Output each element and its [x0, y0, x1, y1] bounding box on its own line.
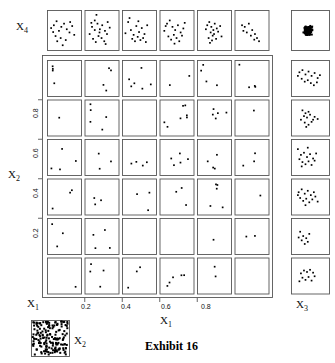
- grid-panel-frame-r2c1: [85, 140, 119, 176]
- y-tick-label-1: 0.6: [32, 148, 39, 158]
- grid-panel-frame-r2c4: [198, 140, 232, 176]
- grid-panel-frame-r1c1: [85, 100, 119, 136]
- grid-panel-points-r4c4: [213, 239, 215, 241]
- x-tick-label-1: 0.4: [121, 303, 131, 310]
- grid-panel-frame-r1c0: [48, 100, 82, 136]
- grid-panel-frame-r3c2: [123, 179, 157, 215]
- top-panel-frame-0: [48, 11, 82, 51]
- grid-panel-frame-r5c1: [85, 258, 119, 294]
- axis-label-x3: X3: [296, 298, 308, 313]
- right-panel-frame-4: [292, 219, 330, 255]
- top-panel-frame-2: [123, 11, 157, 51]
- grid-panel-frame-r3c4: [198, 179, 232, 215]
- grid-panel-points-r1c0: [58, 117, 60, 119]
- grid-panel-frame-r3c0: [48, 179, 82, 215]
- x-tick-label-2: 0.6: [161, 303, 171, 310]
- grid-panel-frame-r0c1: [85, 61, 119, 97]
- axis-label-x4: X4: [16, 20, 28, 35]
- right-panel-frame-0: [292, 61, 330, 97]
- grid-panel-frame-r2c2: [123, 140, 157, 176]
- grid-panel-frame-r4c2: [123, 219, 157, 255]
- axis-label-x2: X2: [8, 168, 20, 183]
- grid-panel-frame-r2c3: [160, 140, 194, 176]
- grid-panel-frame-r5c5: [235, 258, 269, 294]
- figure-caption: Exhibit 16: [145, 339, 198, 354]
- grid-panel-frame-r4c5: [235, 219, 269, 255]
- axis-label-x1-left: X1: [27, 297, 39, 312]
- grid-panel-frame-r3c1: [85, 179, 119, 215]
- grid-panel-frame-r0c5: [235, 61, 269, 97]
- axis-label-x1-bottom: X1: [160, 314, 172, 329]
- grid-panel-frame-r3c5: [235, 179, 269, 215]
- top-panel-frame-1: [85, 11, 119, 51]
- y-tick-label-3: 0.2: [32, 228, 39, 238]
- grid-panel-frame-r2c5: [235, 140, 269, 176]
- axis-label-x2-inset: X2: [74, 334, 86, 349]
- y-tick-label-2: 0.4: [32, 188, 39, 198]
- grid-panel-frame-r5c3: [160, 258, 194, 294]
- top-panel-frame-4: [198, 11, 232, 51]
- grid-panel-frame-r2c0: [48, 140, 82, 176]
- grid-panel-frame-r4c3: [160, 219, 194, 255]
- grid-panel-frame-r5c0: [48, 258, 82, 294]
- grid-panel-frame-r3c3: [160, 179, 194, 215]
- right-panel-frame-2: [292, 140, 330, 176]
- grid-panel-frame-r5c4: [198, 258, 232, 294]
- grid-panel-frame-r0c2: [123, 61, 157, 97]
- grid-panel-frame-r0c3: [160, 61, 194, 97]
- right-panel-frame-3: [292, 179, 330, 215]
- right-panel-frame-1: [292, 100, 330, 136]
- grid-panel-frame-r1c3: [160, 100, 194, 136]
- grid-panel-frame-r4c4: [198, 219, 232, 255]
- figure-exhibit-16: X4 X2 X1 X1 X3 X2 0.2 0.4 0.6 0.8 0.8 0.…: [0, 0, 335, 363]
- grid-panel-points-r5c0: [75, 286, 77, 288]
- grid-panel-points-r1c5: [253, 110, 255, 112]
- right-panel-frame-5: [292, 258, 330, 294]
- y-tick-label-0: 0.8: [32, 108, 39, 118]
- grid-panel-frame-r1c2: [123, 100, 157, 136]
- grid-panel-frame-r0c4: [198, 61, 232, 97]
- grid-panel-frame-r1c5: [235, 100, 269, 136]
- grid-panel-frame-r5c2: [123, 258, 157, 294]
- grid-panel-points-r3c5: [260, 195, 262, 197]
- grid-panel-frame-r4c1: [85, 219, 119, 255]
- x-tick-label-0: 0.2: [81, 303, 91, 310]
- grid-panel-frame-r1c4: [198, 100, 232, 136]
- x-tick-label-3: 0.8: [201, 303, 211, 310]
